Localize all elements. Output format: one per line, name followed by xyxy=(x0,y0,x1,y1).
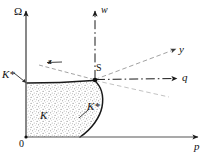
region-k-label: K xyxy=(40,110,47,121)
q-ray-label: q xyxy=(182,72,188,83)
k-star-left-leader xyxy=(14,73,27,83)
point-s-label: S xyxy=(96,63,102,73)
k-star-left-label: K* xyxy=(2,69,15,80)
z-ray xyxy=(37,62,94,80)
k-star-curve-label: K* xyxy=(87,101,100,112)
point-s-marker xyxy=(93,78,98,83)
y-ray xyxy=(95,49,176,80)
q-ray xyxy=(96,79,177,80)
y-ray-label: y xyxy=(179,44,184,55)
figure-canvas: Ω w y q z p 0 S K K* K* xyxy=(0,0,212,157)
z-ray-label: z xyxy=(48,57,52,66)
p-axis-label: p xyxy=(194,141,200,152)
lower-dashed-ray xyxy=(95,81,169,98)
w-ray-label: w xyxy=(101,5,108,15)
figure-svg xyxy=(0,0,212,157)
origin-marker xyxy=(24,135,27,138)
origin-label: 0 xyxy=(19,139,24,149)
omega-axis-label: Ω xyxy=(14,6,22,17)
